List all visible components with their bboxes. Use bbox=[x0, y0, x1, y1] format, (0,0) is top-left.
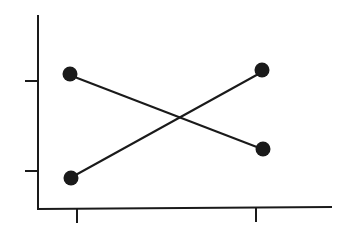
point-s2-a bbox=[64, 171, 79, 186]
point-s1-b bbox=[256, 142, 271, 157]
series-lines bbox=[72, 72, 262, 177]
point-s1-a bbox=[63, 67, 78, 82]
point-s2-b bbox=[255, 63, 270, 78]
interaction-chart bbox=[0, 0, 348, 230]
x-axis bbox=[37, 207, 332, 209]
